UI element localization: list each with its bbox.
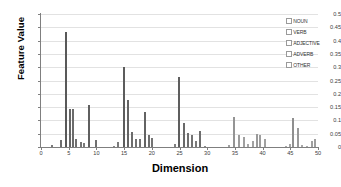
bar — [139, 139, 141, 148]
x-axis-title: Dimension — [41, 162, 319, 174]
bar — [256, 134, 258, 147]
y-tick-mark — [38, 81, 40, 82]
y-tick-mark — [38, 94, 40, 95]
bar — [83, 143, 85, 147]
bar — [306, 146, 308, 147]
bar — [72, 109, 74, 147]
bar — [183, 123, 185, 147]
x-tick-mark — [207, 148, 208, 150]
bar — [60, 140, 62, 147]
legend-label: ADVERB — [293, 51, 313, 57]
x-tick-label: 25 — [170, 150, 190, 156]
bar — [252, 141, 254, 147]
bar — [148, 135, 150, 147]
bar — [228, 145, 230, 147]
gridline — [41, 67, 318, 68]
bar — [88, 105, 90, 147]
bar — [178, 77, 180, 147]
legend-label: NOUN — [293, 18, 307, 24]
bar — [51, 145, 53, 147]
bar — [285, 146, 287, 147]
bar — [127, 100, 129, 147]
x-tick-label: 5 — [59, 150, 79, 156]
legend-entry: VERB — [286, 27, 338, 37]
legend-swatch-icon — [286, 51, 292, 57]
bar — [144, 112, 146, 147]
bar — [301, 145, 303, 147]
x-tick-label: 35 — [225, 150, 245, 156]
bar — [135, 139, 137, 148]
y-tick-mark — [38, 120, 40, 121]
bar — [123, 67, 125, 147]
bar — [151, 138, 153, 147]
bar — [289, 144, 291, 147]
bar — [204, 146, 206, 147]
y-tick-mark — [38, 41, 40, 42]
y-tick-mark — [38, 107, 40, 108]
x-tick-mark — [96, 148, 97, 150]
x-tick-mark — [318, 148, 319, 150]
bar — [311, 141, 313, 147]
legend-label: ADJECTIVE — [293, 40, 320, 46]
x-tick-mark — [41, 148, 42, 150]
y-tick-mark — [38, 134, 40, 135]
bar — [314, 139, 316, 147]
x-tick-mark — [69, 148, 70, 150]
chart-legend: NOUNVERBADJECTIVEADVERBOTHER — [286, 16, 338, 71]
bar — [187, 133, 189, 147]
bar — [95, 140, 97, 147]
bar — [297, 128, 299, 147]
bar — [195, 141, 197, 147]
bar — [233, 117, 235, 147]
legend-swatch-icon — [286, 62, 292, 68]
legend-label: VERB — [293, 29, 306, 35]
gridline — [41, 41, 318, 42]
x-tick-mark — [180, 148, 181, 150]
bar — [117, 142, 119, 147]
bar — [259, 135, 261, 148]
plot-area — [41, 14, 318, 147]
x-tick-mark — [235, 148, 236, 150]
legend-swatch-icon — [286, 29, 292, 35]
gridline — [41, 27, 318, 28]
x-tick-label: 15 — [114, 150, 134, 156]
bar — [292, 118, 294, 147]
x-tick-label: 0 — [31, 150, 51, 156]
legend-entry: ADJECTIVE — [286, 38, 338, 48]
x-tick-mark — [124, 148, 125, 150]
y-tick-mark — [38, 54, 40, 55]
x-tick-mark — [290, 148, 291, 150]
legend-entry: OTHER — [286, 60, 338, 70]
y-axis-title: Feature Value — [15, 0, 26, 104]
x-tick-mark — [152, 148, 153, 150]
x-tick-label: 30 — [197, 150, 217, 156]
legend-swatch-icon — [286, 40, 292, 46]
legend-entry: ADVERB — [286, 49, 338, 59]
feature-value-bar-chart: Feature Value 00.050.10.150.20.250.30.35… — [0, 0, 341, 187]
legend-label: OTHER — [293, 62, 310, 68]
bar — [75, 139, 77, 147]
y-tick-mark — [38, 147, 40, 148]
x-tick-label: 10 — [86, 150, 106, 156]
y-tick-mark — [38, 14, 40, 15]
bar — [199, 131, 201, 147]
x-tick-label: 50 — [308, 150, 328, 156]
bar — [247, 144, 249, 147]
y-tick-mark — [38, 27, 40, 28]
legend-entry: NOUN — [286, 16, 338, 26]
x-tick-mark — [263, 148, 264, 150]
bar — [65, 32, 67, 147]
gridline — [41, 54, 318, 55]
legend-swatch-icon — [286, 18, 292, 24]
x-tick-label: 20 — [142, 150, 162, 156]
y-tick-mark — [38, 67, 40, 68]
bar — [191, 135, 193, 147]
x-tick-label: 40 — [253, 150, 273, 156]
bar — [264, 139, 266, 148]
bar — [243, 137, 245, 147]
bar — [131, 132, 133, 147]
x-tick-label: 45 — [280, 150, 300, 156]
bar — [113, 146, 115, 147]
bar — [69, 109, 71, 147]
bar — [80, 142, 82, 147]
